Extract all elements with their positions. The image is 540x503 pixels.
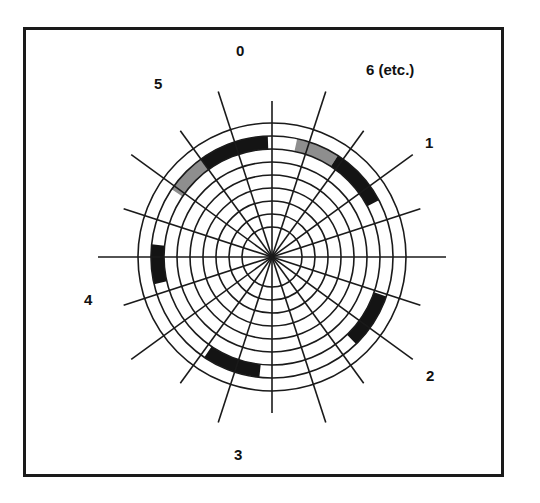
polar-grid-chart [0, 0, 540, 503]
arc-segment-right-upper-black [331, 156, 379, 207]
figure-root: 06 (etc.)51423 [0, 0, 540, 503]
sector-label-6-etc: 6 (etc.) [366, 62, 414, 77]
angular-spokes-group [98, 92, 446, 423]
sector-label-1: 1 [425, 135, 433, 150]
sector-label-3: 3 [234, 447, 242, 462]
sector-label-4: 4 [84, 292, 92, 307]
sector-label-5: 5 [154, 76, 162, 91]
sector-label-0: 0 [236, 43, 244, 58]
sector-label-2: 2 [426, 368, 434, 383]
